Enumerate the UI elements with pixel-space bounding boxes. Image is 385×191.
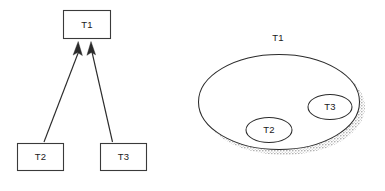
set-t3-label: T3 xyxy=(324,101,336,112)
figure-root: T1 T2 T3 xyxy=(0,0,385,191)
tree-node-t3[interactable]: T3 xyxy=(101,144,147,171)
edge-line-t2-t1 xyxy=(44,52,79,142)
tree-node-t2-label: T2 xyxy=(35,151,47,162)
set-t3[interactable]: T3 xyxy=(308,95,352,120)
nested-set-panel: T1 T3 T2 xyxy=(190,0,385,191)
set-t2[interactable]: T2 xyxy=(246,118,292,143)
set-t2-label: T2 xyxy=(263,124,275,135)
set-t1-label: T1 xyxy=(272,32,284,43)
arrowhead-t3-t1-icon xyxy=(87,42,96,56)
edge-t3-to-t1 xyxy=(87,42,113,143)
edge-t2-to-t1 xyxy=(44,42,82,143)
tree-node-t1-label: T1 xyxy=(81,19,93,30)
tree-node-t2[interactable]: T2 xyxy=(18,144,64,171)
tree-node-t3-label: T3 xyxy=(118,151,130,162)
hierarchy-tree-panel: T1 T2 T3 xyxy=(0,0,190,191)
edge-line-t3-t1 xyxy=(92,52,113,142)
tree-node-t1[interactable]: T1 xyxy=(64,11,111,39)
